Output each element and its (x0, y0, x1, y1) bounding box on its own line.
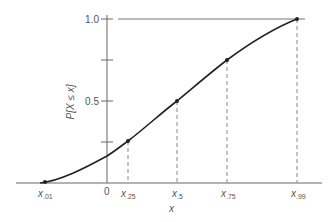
cdf-curve (40, 19, 297, 183)
point-q25 (126, 139, 130, 143)
x-tick-label-q99: x.99 (290, 188, 306, 200)
point-q01 (43, 180, 47, 184)
y-tick-label-1: 1.0 (85, 14, 99, 25)
point-q75 (225, 58, 229, 62)
cdf-chart: 1.0 0.5 P[X ≤ x] x.01 0 x.25 x.5 x.75 x.… (0, 0, 332, 222)
x-tick-label-q75: x.75 (220, 188, 236, 200)
x-axis-label: x (168, 203, 175, 214)
y-tick-label-05: 0.5 (85, 96, 99, 107)
point-q5 (175, 99, 179, 103)
y-axis-label: P[X ≤ x] (65, 84, 76, 119)
x-tick-label-zero: 0 (104, 186, 110, 197)
point-q99 (295, 17, 299, 21)
x-tick-label-q25: x.25 (120, 188, 136, 200)
x-tick-label-q5: x.5 (171, 188, 183, 200)
x-tick-label-q01: x.01 (37, 188, 53, 200)
